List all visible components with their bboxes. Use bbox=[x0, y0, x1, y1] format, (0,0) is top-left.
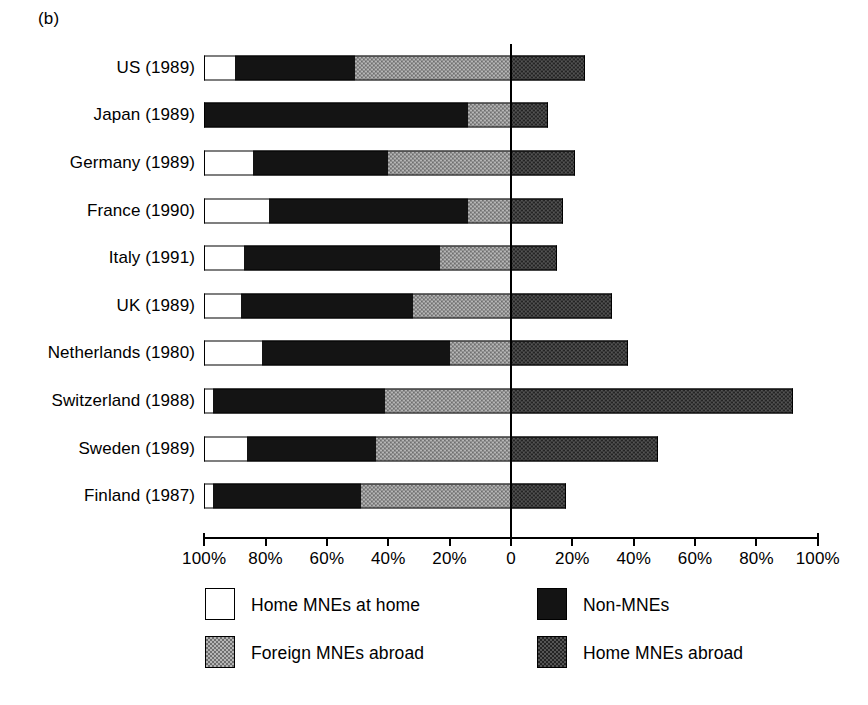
segment-non-mnes bbox=[244, 246, 440, 271]
category-label: UK (1989) bbox=[117, 296, 195, 316]
segment-home-mnes-abroad bbox=[511, 150, 575, 175]
segment-non-mnes bbox=[247, 436, 376, 461]
x-tick bbox=[633, 537, 635, 546]
x-tick-label: 20% bbox=[432, 549, 467, 569]
legend-swatch-home-mnes-at-home bbox=[205, 588, 235, 620]
segment-home-mnes-at-home bbox=[204, 436, 247, 461]
segment-non-mnes bbox=[253, 150, 388, 175]
segment-foreign-mnes-abroad bbox=[468, 103, 511, 128]
segment-home-mnes-at-home bbox=[204, 198, 268, 223]
segment-foreign-mnes-abroad bbox=[440, 246, 511, 271]
bar-row: Italy (1991) bbox=[0, 234, 868, 282]
x-tick bbox=[817, 533, 819, 546]
legend-label: Home MNEs abroad bbox=[583, 643, 743, 664]
segment-home-mnes-abroad bbox=[511, 198, 563, 223]
bar-row: Germany (1989) bbox=[0, 139, 868, 187]
segment-home-mnes-at-home bbox=[204, 484, 213, 509]
bar-row: France (1990) bbox=[0, 187, 868, 235]
x-tick bbox=[510, 537, 512, 546]
segment-foreign-mnes-abroad bbox=[413, 293, 511, 318]
legend-label: Non-MNEs bbox=[583, 595, 669, 616]
zero-axis-line bbox=[510, 44, 512, 538]
category-label: Netherlands (1980) bbox=[48, 343, 195, 363]
category-label: Japan (1989) bbox=[94, 105, 195, 125]
segment-foreign-mnes-abroad bbox=[376, 436, 511, 461]
segment-home-mnes-abroad bbox=[511, 103, 548, 128]
category-label: Germany (1989) bbox=[70, 153, 195, 173]
x-tick bbox=[571, 537, 573, 546]
legend-label: Foreign MNEs abroad bbox=[251, 643, 424, 664]
x-tick bbox=[203, 533, 205, 546]
segment-foreign-mnes-abroad bbox=[450, 341, 511, 366]
segment-foreign-mnes-abroad bbox=[361, 484, 511, 509]
segment-home-mnes-at-home bbox=[204, 55, 235, 80]
x-tick-label: 100% bbox=[796, 549, 840, 569]
bar-row: Finland (1987) bbox=[0, 472, 868, 520]
x-tick bbox=[449, 537, 451, 546]
segment-home-mnes-abroad bbox=[511, 436, 658, 461]
chart-figure: (b) US (1989)Japan (1989)Germany (1989)F… bbox=[0, 0, 868, 705]
x-tick bbox=[326, 537, 328, 546]
segment-non-mnes bbox=[262, 341, 449, 366]
category-label: US (1989) bbox=[117, 58, 195, 78]
category-label: Sweden (1989) bbox=[78, 439, 195, 459]
x-tick bbox=[755, 537, 757, 546]
x-tick-label: 40% bbox=[371, 549, 406, 569]
bar-row: Sweden (1989) bbox=[0, 425, 868, 473]
segment-foreign-mnes-abroad bbox=[388, 150, 511, 175]
category-label: Italy (1991) bbox=[109, 248, 195, 268]
x-tick-label: 40% bbox=[616, 549, 651, 569]
chart-legend: Home MNEs at homeNon-MNEsForeign MNEs ab… bbox=[0, 588, 868, 698]
segment-home-mnes-abroad bbox=[511, 293, 612, 318]
x-tick-label: 80% bbox=[739, 549, 774, 569]
segment-home-mnes-abroad bbox=[511, 484, 566, 509]
segment-non-mnes bbox=[241, 293, 413, 318]
x-tick bbox=[387, 537, 389, 546]
category-label: France (1990) bbox=[87, 201, 195, 221]
segment-home-mnes-abroad bbox=[511, 341, 628, 366]
panel-label: (b) bbox=[38, 9, 59, 29]
segment-home-mnes-abroad bbox=[511, 55, 585, 80]
x-tick bbox=[265, 537, 267, 546]
segment-non-mnes bbox=[204, 103, 468, 128]
segment-home-mnes-at-home bbox=[204, 246, 244, 271]
x-tick-label: 20% bbox=[555, 549, 590, 569]
legend-swatch-foreign-mnes-abroad bbox=[205, 636, 235, 668]
segment-home-mnes-at-home bbox=[204, 341, 262, 366]
segment-foreign-mnes-abroad bbox=[385, 388, 511, 413]
legend-label: Home MNEs at home bbox=[251, 595, 420, 616]
bar-row: Japan (1989) bbox=[0, 92, 868, 140]
segment-non-mnes bbox=[213, 484, 360, 509]
segment-home-mnes-abroad bbox=[511, 246, 557, 271]
x-tick-label: 100% bbox=[182, 549, 226, 569]
bar-row: US (1989) bbox=[0, 44, 868, 92]
segment-foreign-mnes-abroad bbox=[468, 198, 511, 223]
segment-non-mnes bbox=[269, 198, 468, 223]
bar-row: UK (1989) bbox=[0, 282, 868, 330]
segment-non-mnes bbox=[213, 388, 385, 413]
segment-foreign-mnes-abroad bbox=[355, 55, 511, 80]
x-tick-label: 80% bbox=[248, 549, 283, 569]
segment-home-mnes-at-home bbox=[204, 293, 241, 318]
segment-home-mnes-abroad bbox=[511, 388, 793, 413]
x-tick-label: 60% bbox=[678, 549, 713, 569]
segment-home-mnes-at-home bbox=[204, 388, 213, 413]
legend-swatch-non-mnes bbox=[537, 588, 567, 620]
segment-non-mnes bbox=[235, 55, 355, 80]
x-tick-label: 0 bbox=[506, 549, 516, 569]
legend-swatch-home-mnes-abroad bbox=[537, 636, 567, 668]
x-tick-label: 60% bbox=[310, 549, 345, 569]
segment-home-mnes-at-home bbox=[204, 150, 253, 175]
plot-area: US (1989)Japan (1989)Germany (1989)Franc… bbox=[0, 44, 868, 534]
x-tick bbox=[694, 537, 696, 546]
bar-row: Switzerland (1988) bbox=[0, 377, 868, 425]
category-label: Finland (1987) bbox=[84, 486, 195, 506]
category-label: Switzerland (1988) bbox=[51, 391, 195, 411]
bar-row: Netherlands (1980) bbox=[0, 330, 868, 378]
